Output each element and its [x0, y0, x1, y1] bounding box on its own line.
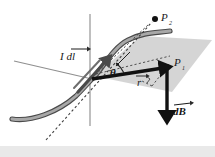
current-element-text: I dl [59, 50, 75, 62]
radius-vector-text: r [137, 76, 142, 88]
footer-band [0, 146, 215, 157]
point-p2-text: P [160, 11, 168, 23]
point-p2-subscript: 2 [169, 20, 172, 26]
point-p1-subscript: 1 [182, 65, 185, 71]
biot-savart-diagram: I dl P 2 P 1 θ r dB [0, 0, 215, 157]
point-p2-dot [152, 16, 158, 22]
physics-figure: I dl P 2 P 1 θ r dB [0, 0, 215, 157]
point-p1-dot [164, 64, 170, 70]
field-vector-text: dB [173, 105, 186, 117]
point-p1-text: P [173, 56, 181, 68]
angle-theta-label: θ [110, 66, 116, 78]
